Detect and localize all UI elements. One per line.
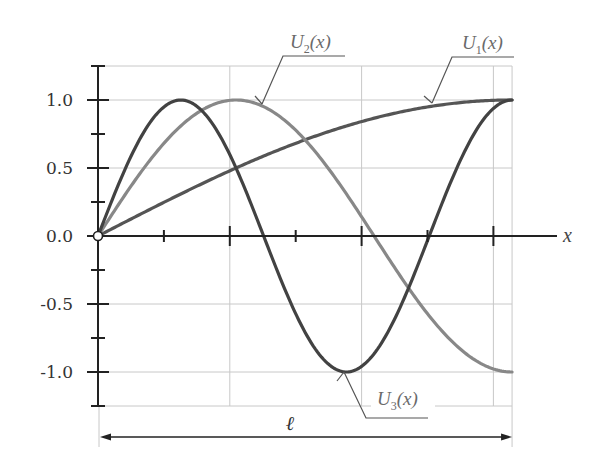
- curve-label-u1x: U1(x): [424, 32, 514, 103]
- curve-label-u2x: U2(x): [255, 31, 345, 104]
- arrowhead-right: [501, 434, 512, 441]
- dimension-extension-lines: [99, 406, 512, 447]
- y-tick-label: 0.5: [46, 158, 73, 178]
- curve-label-text: U2(x): [290, 31, 331, 56]
- curve-label-u3x: U3(x): [337, 372, 435, 418]
- leader-line: [432, 57, 514, 103]
- y-tick-label: -0.5: [40, 294, 73, 314]
- y-tick-label: 0.0: [46, 226, 73, 246]
- dimension-arrow: [100, 434, 512, 441]
- y-tick-labels: -1.0-0.50.00.51.0: [40, 90, 73, 382]
- y-tick-label: -1.0: [40, 362, 73, 382]
- curve-label-text: U1(x): [462, 32, 503, 57]
- leader-line: [262, 56, 345, 104]
- arrowhead-left: [100, 434, 111, 441]
- y-tick-label: 1.0: [46, 90, 73, 110]
- x-axis-label: x: [562, 224, 572, 246]
- chart: -1.0-0.50.00.51.0 x U2(x)U1(x)U3(x) ℓ: [0, 0, 599, 470]
- leader-hook: [337, 372, 344, 381]
- dimension-label-ell: ℓ: [286, 411, 295, 435]
- origin-marker: [94, 232, 103, 241]
